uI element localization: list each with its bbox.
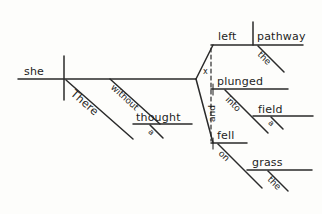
marker-x: x bbox=[203, 68, 208, 76]
word-plunged: plunged bbox=[217, 76, 263, 87]
word-field: field bbox=[258, 104, 283, 115]
word-fell: fell bbox=[217, 130, 235, 141]
word-she: she bbox=[24, 66, 44, 77]
word-and: and bbox=[208, 105, 217, 122]
sentence-diagram-canvas: she There without thought a x and left p… bbox=[0, 0, 322, 214]
word-thought: thought bbox=[136, 112, 181, 123]
word-left: left bbox=[218, 31, 237, 42]
word-grass: grass bbox=[252, 157, 283, 168]
word-pathway: pathway bbox=[257, 31, 306, 42]
